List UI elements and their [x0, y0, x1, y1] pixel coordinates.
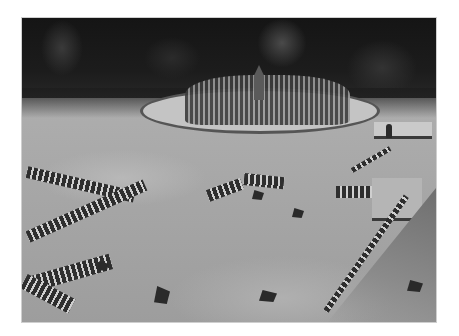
person-figure	[386, 124, 392, 138]
archaeological-site-photo	[21, 17, 437, 323]
circular-sanctuary-posts	[185, 75, 350, 125]
stone-platform-upper-right	[374, 122, 432, 139]
right-stone-row-short	[336, 186, 376, 198]
